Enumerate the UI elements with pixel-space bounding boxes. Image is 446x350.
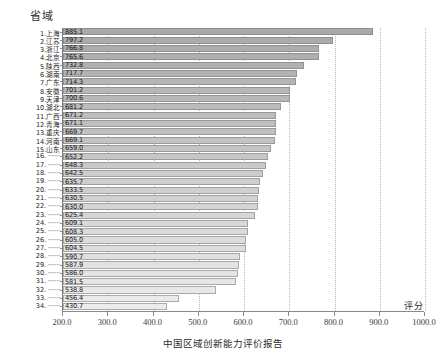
category-label: 18. ······ xyxy=(36,169,60,177)
x-axis-tick-label: 900.0 xyxy=(369,317,388,327)
x-axis-tick xyxy=(243,312,244,316)
category-label: 23. ······ xyxy=(36,211,60,219)
bar-value-label: 797.2 xyxy=(65,36,83,44)
bar-value-label: 700.6 xyxy=(65,94,83,102)
x-axis-tick-label: 800.0 xyxy=(324,317,343,327)
chart-row: 4.北京765.6 xyxy=(63,53,424,61)
bar xyxy=(63,278,236,285)
x-axis-tick-label: 400.0 xyxy=(143,317,162,327)
chart-row: 34. ······430.7 xyxy=(63,303,424,311)
bar xyxy=(63,28,373,35)
bar-value-label: 669.1 xyxy=(65,136,83,144)
bar xyxy=(63,270,238,277)
bar-value-label: 659.0 xyxy=(65,144,83,152)
bar-value-label: 652.2 xyxy=(65,153,83,161)
chart-row: 13.重庆669.7 xyxy=(63,128,424,136)
bar-value-label: 766.8 xyxy=(65,44,83,52)
bar xyxy=(63,112,276,119)
chart-row: 14.河南669.1 xyxy=(63,136,424,144)
chart-row: 1.上海885.1 xyxy=(63,28,424,36)
x-axis-tick xyxy=(379,312,380,316)
x-axis-tick-label: 200.0 xyxy=(52,317,71,327)
bar xyxy=(63,145,271,152)
category-label: 32. ······ xyxy=(36,286,60,294)
bar-value-label: 633.5 xyxy=(65,186,83,194)
category-label: 22. ······ xyxy=(36,202,60,210)
bar xyxy=(63,228,248,235)
bar xyxy=(63,286,216,293)
chart-row: 6.湖南717.7 xyxy=(63,70,424,78)
chart-row: 30. ······586.0 xyxy=(63,269,424,277)
x-axis-title: 评分 xyxy=(404,299,423,312)
x-axis: 200.0300.0400.0500.0600.0700.0800.0900.0… xyxy=(62,311,424,312)
bar-value-label: 648.3 xyxy=(65,161,83,169)
bar xyxy=(63,37,333,44)
bar xyxy=(63,261,239,268)
bar-value-label: 630.0 xyxy=(65,203,83,211)
x-axis-tick xyxy=(107,312,108,316)
bar xyxy=(63,62,304,69)
category-label: 16. ······ xyxy=(36,152,60,160)
bar xyxy=(63,178,260,185)
chart-row: 24. ······609.1 xyxy=(63,219,424,227)
chart-row: 2.江苏797.2 xyxy=(63,36,424,44)
chart-row: 33. ······456.4 xyxy=(63,294,424,302)
bar-value-label: 587.9 xyxy=(65,261,83,269)
chart-row: 27. ······604.5 xyxy=(63,244,424,252)
x-axis-tick xyxy=(62,312,63,316)
x-axis-tick-label: 1000.0 xyxy=(412,317,435,327)
chart-row: 31. ······581.5 xyxy=(63,278,424,286)
bar-value-label: 635.7 xyxy=(65,178,83,186)
chart-row: 29. ······587.9 xyxy=(63,261,424,269)
chart-row: 9.天津700.6 xyxy=(63,95,424,103)
bar-value-label: 717.7 xyxy=(65,69,83,77)
category-label: 26. ······ xyxy=(36,236,60,244)
bar xyxy=(63,95,290,102)
category-label: 30. ······ xyxy=(36,269,60,277)
category-label: 29. ······ xyxy=(36,261,60,269)
bar xyxy=(63,245,246,252)
x-axis-tick xyxy=(288,312,289,316)
bar-value-label: 604.5 xyxy=(65,244,83,252)
y-axis-title: 省域 xyxy=(30,7,54,23)
bar xyxy=(63,128,276,135)
x-axis-tick-label: 300.0 xyxy=(98,317,117,327)
bar-value-label: 765.6 xyxy=(65,53,83,61)
bar-value-label: 642.5 xyxy=(65,169,83,177)
chart-row: 15.山东659.0 xyxy=(63,145,424,153)
chart-row: 23. ······625.4 xyxy=(63,211,424,219)
chart-row: 18. ······642.5 xyxy=(63,170,424,178)
bar-value-label: 586.0 xyxy=(65,269,83,277)
chart-row: 10.湖北681.2 xyxy=(63,103,424,111)
bar-value-label: 671.2 xyxy=(65,111,83,119)
bar xyxy=(63,53,319,60)
x-axis-tick xyxy=(153,312,154,316)
bar xyxy=(63,203,258,210)
chart-row: 16. ······652.2 xyxy=(63,153,424,161)
chart-row: 21. ······630.5 xyxy=(63,194,424,202)
gridline xyxy=(425,28,426,311)
bar xyxy=(63,195,258,202)
bar-value-label: 669.7 xyxy=(65,128,83,136)
category-label: 17. ······ xyxy=(36,161,60,169)
chart-row: 12.青海671.1 xyxy=(63,120,424,128)
chart-row: 17. ······648.3 xyxy=(63,161,424,169)
chart-row: 20. ······633.5 xyxy=(63,186,424,194)
bar xyxy=(63,187,259,194)
bar-value-label: 581.5 xyxy=(65,278,83,286)
bar-value-label: 630.5 xyxy=(65,194,83,202)
category-label: 31. ······ xyxy=(36,277,60,285)
category-label: 27. ······ xyxy=(36,244,60,252)
category-label: 20. ······ xyxy=(36,186,60,194)
bar-value-label: 609.1 xyxy=(65,219,83,227)
x-axis-tick xyxy=(334,312,335,316)
chart-row: 22. ······630.0 xyxy=(63,203,424,211)
bar-value-label: 456.4 xyxy=(65,294,83,302)
bar-value-label: 671.1 xyxy=(65,119,83,127)
x-axis-tick-label: 600.0 xyxy=(233,317,252,327)
chart-row: 3.浙江766.8 xyxy=(63,45,424,53)
bar xyxy=(63,137,275,144)
x-axis-tick-label: 500.0 xyxy=(188,317,207,327)
category-label: 24. ······ xyxy=(36,219,60,227)
